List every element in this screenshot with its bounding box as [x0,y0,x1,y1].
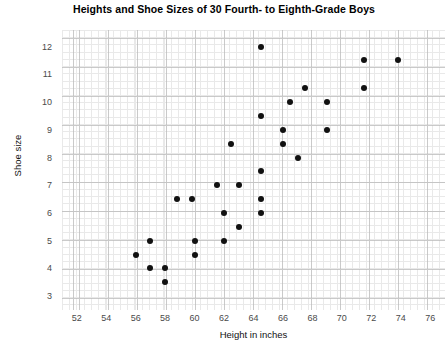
y-tick-label: 4 [0,263,52,273]
y-tick-label: 6 [0,208,52,218]
data-point [302,85,308,91]
y-tick-label: 8 [0,153,52,163]
data-point [192,238,198,244]
data-point [221,238,227,244]
y-tick-label: 10 [0,97,52,107]
x-axis-label: Height in inches [62,329,445,340]
data-point [287,99,293,105]
plot-area [62,30,445,310]
data-point [258,168,264,174]
data-point [361,57,367,63]
page-title: Heights and Shoe Sizes of 30 Fourth- to … [0,3,448,15]
data-point [324,99,330,105]
data-point [258,113,264,119]
y-tick-label: 7 [0,180,52,190]
data-point [236,224,242,230]
data-point [174,196,180,202]
data-point [258,44,264,50]
data-point [133,252,139,258]
y-axis-label: Shoe size [12,106,23,206]
data-point [361,85,367,91]
y-tick-label: 3 [0,291,52,301]
data-point [295,155,301,161]
x-tick-label: 54 [101,313,111,323]
data-point [147,238,153,244]
x-tick-label: 52 [72,313,82,323]
data-point [324,127,330,133]
x-tick-label: 64 [248,313,258,323]
x-tick-label: 72 [366,313,376,323]
x-tick-label: 68 [307,313,317,323]
y-tick-label: 11 [0,69,52,79]
x-tick-label: 76 [425,313,435,323]
x-tick-label: 56 [131,313,141,323]
data-point [192,252,198,258]
x-tick-label: 66 [278,313,288,323]
data-point [236,182,242,188]
data-point [280,127,286,133]
data-point [280,141,286,147]
y-tick-label: 9 [0,125,52,135]
data-point [395,57,401,63]
x-tick-label: 70 [337,313,347,323]
scatter-plot-figure: Heights and Shoe Sizes of 30 Fourth- to … [0,0,448,351]
data-points-layer [62,30,445,310]
data-point [228,141,234,147]
data-point [162,279,168,285]
x-tick-label: 74 [396,313,406,323]
data-point [189,196,195,202]
x-tick-label: 62 [219,313,229,323]
x-tick-label: 60 [190,313,200,323]
data-point [214,182,220,188]
data-point [221,210,227,216]
data-point [147,265,153,271]
x-tick-label: 58 [160,313,170,323]
y-tick-label: 5 [0,236,52,246]
data-point [258,210,264,216]
data-point [258,196,264,202]
y-tick-label: 12 [0,42,52,52]
data-point [162,265,168,271]
